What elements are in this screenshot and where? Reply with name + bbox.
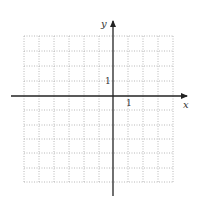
y-tick-label-1: 1 [105,76,111,86]
x-tick-label-1: 1 [126,98,132,108]
grid [24,36,173,182]
y-axis-label: y [100,18,107,29]
x-axis-label: x [183,99,189,110]
coordinate-plane: x y 1 1 [0,0,198,197]
